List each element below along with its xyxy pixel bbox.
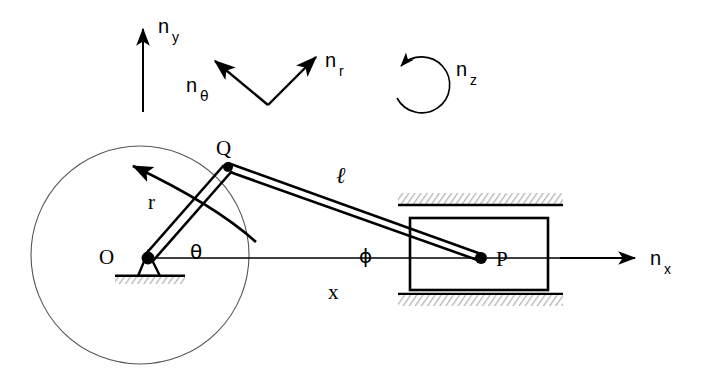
basis-vector-ny-subscript: y [172, 29, 179, 45]
kinematic-diagram: n y n θ n r n z n x [0, 0, 706, 386]
arrow-up-left-icon [215, 61, 268, 105]
basis-vector-ny-symbol: n [158, 15, 169, 37]
connecting-rod [228, 163, 483, 262]
pivot-support-O [115, 252, 185, 284]
ground-hatch [115, 277, 185, 284]
label-crank-angle-theta: θ [190, 240, 202, 264]
connecting-rod-edge-upper [228, 163, 481, 254]
basis-vector-ntheta-symbol: n [186, 74, 197, 96]
basis-vector-nz: n z [397, 57, 477, 113]
basis-vector-nx: n x [560, 247, 671, 277]
label-point-Q: Q [216, 136, 231, 160]
pivot-pin-O [142, 252, 154, 264]
label-displacement-x: x [328, 280, 339, 304]
pivot-pin-P [475, 252, 487, 264]
guide-rail-bottom-hatch [398, 295, 563, 306]
guide-rail-bottom [398, 294, 563, 306]
label-rod-length-ell: ℓ [336, 162, 346, 188]
basis-vector-ntheta-subscript: θ [200, 88, 209, 104]
guide-rail-top-hatch [398, 193, 563, 204]
arrow-up-right-icon [268, 57, 316, 105]
guide-rail-top [398, 193, 563, 205]
basis-vector-nr-subscript: r [339, 63, 344, 79]
crank-path-circle [31, 146, 249, 364]
label-point-O: O [99, 245, 114, 269]
circular-arrow-icon [397, 57, 450, 113]
basis-vector-ny: n y [143, 15, 179, 112]
label-point-P: P [496, 247, 508, 271]
label-crank-length-r: r [148, 190, 155, 214]
pivot-pin-Q [223, 162, 233, 172]
diagram-canvas: n y n θ n r n z n x [0, 0, 706, 386]
basis-vector-nz-symbol: n [456, 58, 467, 80]
basis-vector-ntheta: n θ [186, 61, 268, 105]
label-rod-angle-phi: ϕ [359, 244, 372, 268]
basis-vector-nr: n r [268, 49, 344, 105]
basis-vector-nr-symbol: n [325, 49, 336, 71]
basis-vector-nx-subscript: x [664, 261, 671, 277]
basis-vector-nx-symbol: n [650, 247, 661, 269]
basis-vector-nz-subscript: z [470, 72, 477, 88]
